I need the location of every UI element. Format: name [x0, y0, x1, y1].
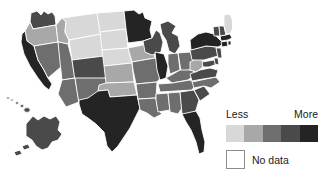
state-MI[interactable]	[160, 21, 180, 54]
state-MN[interactable]	[124, 10, 152, 43]
state-ND[interactable]	[97, 11, 126, 32]
legend-nodata-swatch	[226, 150, 245, 169]
state-HI-island-1[interactable]	[6, 97, 9, 99]
legend-nodata-label: No data	[252, 154, 289, 166]
state-AR[interactable]	[136, 82, 157, 99]
legend-low-label: Less	[226, 108, 248, 121]
state-AK[interactable]	[14, 116, 62, 156]
legend-swatch-1	[226, 125, 244, 142]
state-KS[interactable]	[104, 63, 134, 83]
state-HI-island-4[interactable]	[20, 105, 24, 108]
legend-swatch-5	[300, 125, 318, 142]
state-TX[interactable]	[79, 90, 140, 152]
legend-swatch-2	[244, 125, 262, 142]
legend-swatch-4	[281, 125, 299, 142]
state-ME[interactable]	[224, 14, 232, 34]
state-HI-island-3[interactable]	[15, 102, 19, 104]
state-DE[interactable]	[214, 58, 219, 65]
legend-color-ramp	[226, 125, 318, 142]
state-CT[interactable]	[221, 41, 228, 47]
state-FL[interactable]	[182, 111, 205, 154]
us-map[interactable]	[0, 0, 232, 187]
legend-nodata-row: No data	[226, 150, 326, 169]
state-RI[interactable]	[228, 41, 231, 45]
map-legend: Less More No data	[224, 108, 326, 169]
choropleth-figure: Less More No data	[0, 0, 335, 187]
state-CO[interactable]	[72, 56, 107, 81]
state-SD[interactable]	[100, 29, 128, 50]
legend-swatch-3	[263, 125, 281, 142]
state-HI-island-5[interactable]	[24, 108, 30, 113]
state-HI-island-2[interactable]	[11, 99, 14, 101]
legend-endpoint-labels: Less More	[226, 108, 318, 122]
legend-high-label: More	[294, 108, 318, 121]
